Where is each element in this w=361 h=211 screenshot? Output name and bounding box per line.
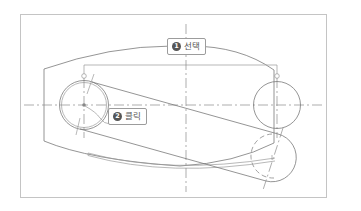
moved-circle-solid [266,134,296,182]
plate-bottom-left-edge [44,141,180,166]
slot-outer-arc [88,153,275,165]
step-number-badge: 1 [172,42,181,51]
cad-drawing [0,0,361,211]
step-number-badge: 2 [113,112,122,121]
callout-select: 1 선택 [167,38,206,55]
tangent-line-lower [80,129,266,181]
bracket-line [84,65,277,74]
plate-top-edge [44,46,274,70]
moved-circle-dashed [251,134,274,178]
plate-bottom-right-edge [180,143,274,166]
callout-click: 2 클릭 [108,108,147,125]
left-pin [82,74,87,79]
callout-click-label: 클릭 [125,112,141,121]
callout-select-label: 선택 [184,42,200,51]
right-pin [275,74,280,79]
